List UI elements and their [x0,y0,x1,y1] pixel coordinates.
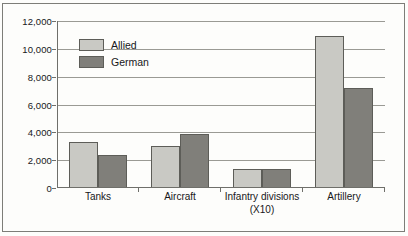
legend-item-allied: Allied [79,37,175,52]
legend-label-allied: Allied [111,39,137,51]
x-axis-category-label: Aircraft [139,191,221,204]
legend-swatch-allied [79,39,104,51]
legend-swatch-german [79,56,104,68]
y-axis-tick-mark [52,21,56,22]
x-label-line2: (X10) [221,204,303,217]
x-axis-category-label: Tanks [57,191,139,204]
y-axis-tick-label: 2,000 [28,155,52,166]
y-axis-tick-mark [52,105,56,106]
chart-legend: AlliedGerman [79,37,175,71]
y-axis-labels: 02,0004,0006,0008,00010,00012,000 [0,21,52,188]
x-label-line1: Artillery [327,191,360,202]
y-axis-tick-label: 10,000 [22,43,52,54]
x-axis-category-label: Artillery [303,191,385,204]
x-axis-labels: TanksAircraftInfantry divisions(X10)Arti… [57,191,385,231]
y-axis-tick-label: 4,000 [28,127,52,138]
y-axis-tick-mark [52,49,56,50]
y-axis-tick-mark [52,188,56,189]
y-axis-tick-mark [52,132,56,133]
legend-item-german: German [79,54,175,69]
x-axis-category-label: Infantry divisions(X10) [221,191,303,216]
y-axis-tick-label: 6,000 [28,99,52,110]
y-axis-tick-label: 12,000 [22,16,52,27]
x-label-line1: Aircraft [164,191,196,202]
legend-label-german: German [111,56,149,68]
y-axis-tick-mark [52,77,56,78]
y-axis-tick-label: 8,000 [28,71,52,82]
x-label-line1: Infantry divisions [225,191,299,202]
x-label-line1: Tanks [85,191,111,202]
y-axis-tick-mark [52,160,56,161]
bar-chart-figure: 02,0004,0006,0008,00010,00012,000 TanksA… [0,0,408,236]
